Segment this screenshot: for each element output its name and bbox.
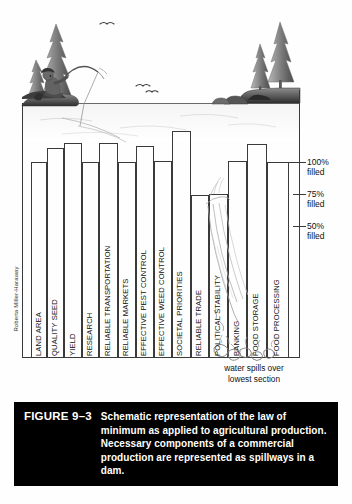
spill-annotation-line1: water spills over bbox=[196, 363, 312, 374]
figure-number: FIGURE 9–3 bbox=[24, 410, 101, 424]
figure-caption-bar: FIGURE 9–3 Schematic representation of t… bbox=[14, 402, 338, 486]
rocks-icon bbox=[212, 88, 300, 104]
bar-label-quality-seed: QUALITY SEED bbox=[51, 246, 59, 356]
bar-label-effective-pest-control: EFFECTIVE PEST CONTROL bbox=[140, 191, 148, 356]
bar-label-societal-priorities: SOCIETAL PRIORITIES bbox=[176, 206, 184, 356]
bar-label-yield: YIELD bbox=[69, 246, 77, 356]
scale-filled-100: filled bbox=[307, 167, 329, 177]
scale-item-75: 75% filled bbox=[307, 189, 324, 209]
artist-credit: Roberta Miller-Haraway bbox=[13, 251, 19, 347]
bar-label-food-processing: FOOD PROCESSING bbox=[273, 216, 281, 356]
bar-label-reliable-markets: RELIABLE MARKETS bbox=[122, 216, 130, 356]
pine-tree-icon bbox=[268, 22, 294, 88]
spill-annotation: water spills over lowest section bbox=[196, 363, 312, 384]
bird-icon bbox=[136, 85, 158, 93]
bar-label-effective-weed-control: EFFECTIVE WEED CONTROL bbox=[158, 186, 166, 356]
bar-label-reliable-transportation: RELIABLE TRANSPORTATION bbox=[104, 186, 112, 356]
figure-container: LAND AREA QUALITY SEED YIELD RESEARCH RE… bbox=[0, 0, 352, 504]
scale-ticks bbox=[288, 163, 306, 227]
scale-item-50: 50% filled bbox=[307, 221, 324, 241]
fill-scale-legend: 100% filled 75% filled 50% filled bbox=[307, 148, 352, 248]
bar-label-political-stability: POLITICAL STABILITY bbox=[214, 216, 222, 356]
bar-label-reliable-trade: RELIABLE TRADE bbox=[195, 236, 203, 356]
scale-filled-75: filled bbox=[307, 199, 324, 209]
bird-icon bbox=[100, 23, 114, 25]
scale-item-100: 100% filled bbox=[307, 157, 329, 177]
bar-label-food-storage: FOOD STORAGE bbox=[252, 236, 260, 356]
reservoir-water bbox=[22, 103, 300, 141]
bar-label-land-area: LAND AREA bbox=[35, 268, 43, 356]
scale-pct-50: 50% bbox=[307, 221, 324, 231]
pine-tree-icon bbox=[251, 44, 270, 93]
scale-filled-50: filled bbox=[307, 231, 324, 241]
bar-label-banking: BANKING bbox=[233, 256, 241, 356]
bar-label-research: RESEARCH bbox=[86, 246, 94, 356]
spill-annotation-line2: lowest section bbox=[196, 374, 312, 385]
scale-pct-75: 75% bbox=[307, 189, 324, 199]
scale-pct-100: 100% bbox=[307, 157, 329, 167]
figure-caption-text: Schematic representation of the law of m… bbox=[101, 410, 328, 478]
